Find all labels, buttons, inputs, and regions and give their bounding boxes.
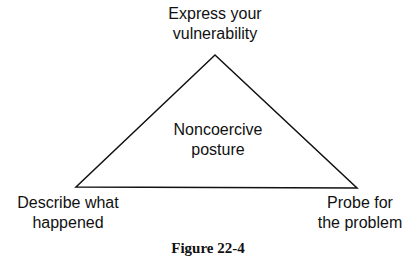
top-vertex-label: Express your vulnerability (155, 4, 275, 44)
figure-caption: Figure 22-4 (158, 240, 258, 257)
center-label-line1: Noncoercive (158, 120, 278, 140)
center-label: Noncoercive posture (158, 120, 278, 160)
bottom-left-vertex-label: Describe what happened (8, 193, 128, 233)
top-label-line2: vulnerability (155, 24, 275, 44)
bottom-right-vertex-label: Probe for the problem (305, 193, 415, 233)
bottom-right-label-line1: Probe for (305, 193, 415, 213)
bottom-right-label-line2: the problem (305, 213, 415, 233)
bottom-left-label-line1: Describe what (8, 193, 128, 213)
bottom-left-label-line2: happened (8, 213, 128, 233)
top-label-line1: Express your (155, 4, 275, 24)
center-label-line2: posture (158, 140, 278, 160)
